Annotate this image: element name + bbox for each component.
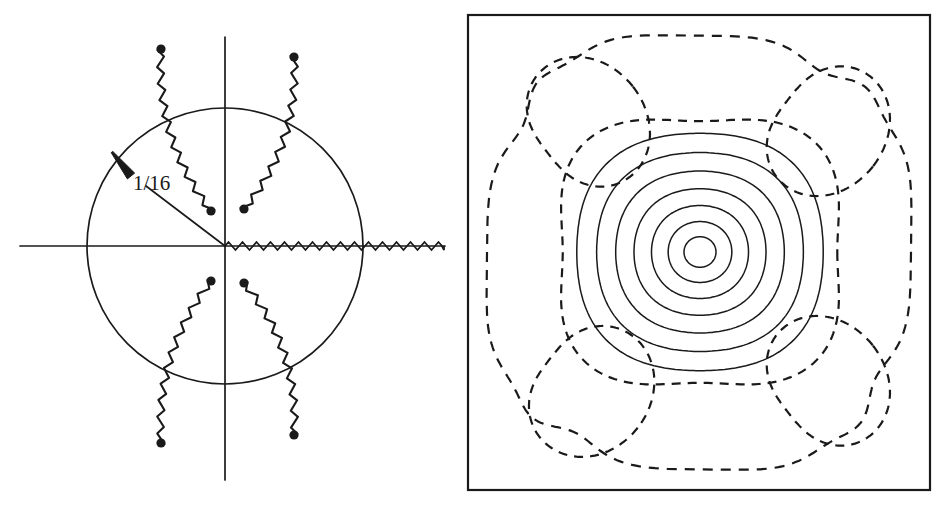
branch-point-dot xyxy=(156,44,165,53)
figure-svg: 1/16 xyxy=(0,0,950,510)
branch-point-dot xyxy=(289,52,298,61)
figure-root: 1/16 xyxy=(0,0,950,510)
branch-point-dot xyxy=(206,206,215,215)
branch-point-dot xyxy=(239,204,248,213)
branch-point-dot xyxy=(239,278,248,287)
branch-point-dot xyxy=(206,276,215,285)
radius-label: 1/16 xyxy=(133,171,170,195)
branch-point-dot xyxy=(289,430,298,439)
branch-point-dot xyxy=(156,438,165,447)
